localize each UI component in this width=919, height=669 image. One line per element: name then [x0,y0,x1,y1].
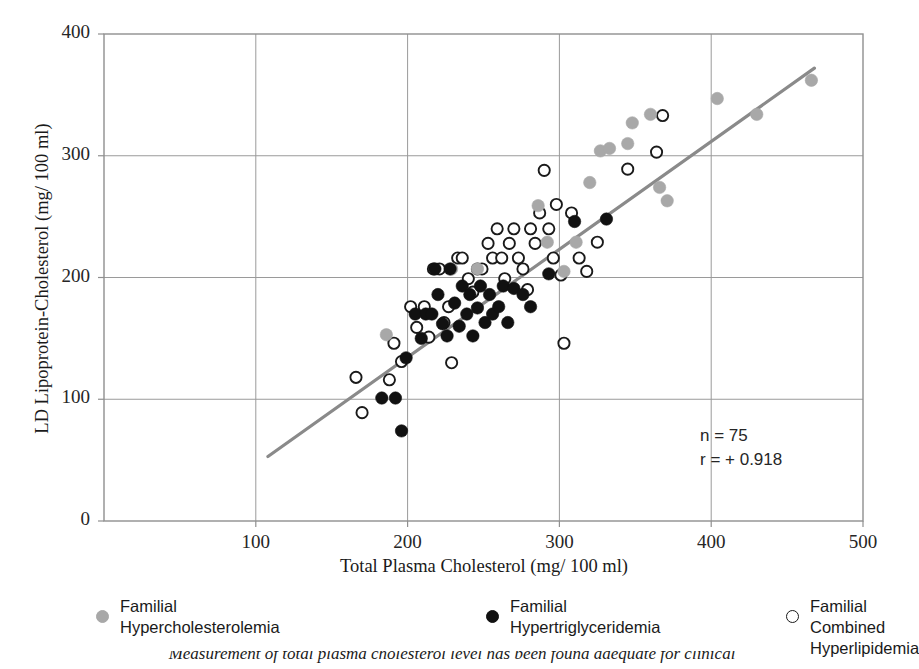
data-points [350,74,817,437]
legend-marker-gray-filled-icon [96,610,109,623]
y-tick-label-0: 0 [8,508,90,530]
legend-label: Familial Hypertriglyceridemia [510,596,660,638]
y-tick-label-400: 400 [8,21,90,43]
trend-line [268,68,814,456]
figure-caption: Measurement of total plasma cholesterol … [0,651,904,669]
correlation-label: r = + 0.918 [700,448,782,472]
x-tick-label-100: 100 [211,531,301,553]
legend-marker-open-icon [786,610,799,623]
caption-text: Measurement of total plasma cholesterol … [0,651,904,664]
x-tick-label-300: 300 [514,531,604,553]
legend-marker-black-filled-icon [486,610,499,623]
legend: Familial HypercholesterolemiaFamilial Hy… [96,596,896,646]
x-tick-label-200: 200 [363,531,453,553]
x-tick-label-500: 500 [818,531,908,553]
legend-label: Familial Hypercholesterolemia [120,596,280,638]
legend-label: Familial Combined Hyperlipidemia [810,596,919,659]
statistics-annotation: n = 75 r = + 0.918 [700,424,782,472]
sample-size-label: n = 75 [700,424,782,448]
y-axis-title: LD Lipoprotein-Cholesterol (mg/ 100 ml) [32,109,53,449]
x-tick-label-400: 400 [666,531,756,553]
x-axis-title: Total Plasma Cholesterol (mg/ 100 ml) [104,556,864,577]
